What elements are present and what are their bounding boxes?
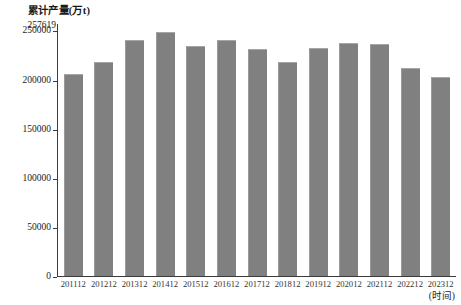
- y-tick-label: 200000: [23, 74, 52, 87]
- y-tick-label: 150000: [23, 123, 52, 136]
- bar: [248, 49, 267, 276]
- bar: [217, 40, 236, 276]
- y-tick-label: 250000: [23, 24, 52, 37]
- y-tick-mark: [53, 130, 57, 131]
- y-tick-mark: [53, 228, 57, 229]
- bar: [186, 46, 205, 276]
- x-axis-line: [57, 276, 456, 277]
- bar: [125, 40, 144, 276]
- bar: [278, 62, 297, 276]
- bar: [156, 32, 175, 276]
- plot-area: 050000100000150000200000250000: [57, 24, 456, 277]
- y-tick-mark: [53, 81, 57, 82]
- bar-chart: 累计产量(万t) 257619 050000100000150000200000…: [0, 0, 461, 305]
- bar: [309, 48, 328, 276]
- bar: [94, 62, 113, 276]
- x-axis-title: (时间): [429, 288, 455, 302]
- y-tick-label: 50000: [27, 221, 51, 234]
- y-tick-mark: [53, 31, 57, 32]
- bar: [431, 77, 450, 276]
- bar: [339, 43, 358, 276]
- bar: [401, 68, 420, 276]
- x-tick-label-group: 2011122012122013122014122015122016122017…: [58, 279, 456, 293]
- y-tick-label: 100000: [23, 172, 52, 185]
- bar: [64, 74, 83, 276]
- y-tick-mark: [53, 277, 57, 278]
- bar: [370, 44, 389, 276]
- y-tick-label: 0: [46, 270, 51, 283]
- y-tick-mark: [53, 179, 57, 180]
- bar-group: [58, 24, 456, 276]
